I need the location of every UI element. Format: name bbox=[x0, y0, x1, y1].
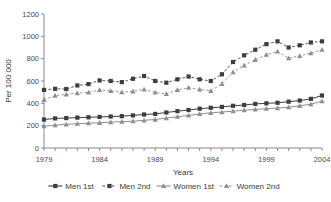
data-point-marker bbox=[319, 47, 324, 52]
series-line bbox=[44, 41, 322, 90]
data-point-marker bbox=[242, 103, 246, 107]
x-axis-title: Years bbox=[173, 168, 193, 177]
data-point-marker bbox=[220, 105, 224, 109]
legend-label: Men 1st bbox=[65, 182, 94, 191]
legend-item-women-2nd[interactable]: Women 2nd bbox=[220, 182, 280, 191]
data-point-marker bbox=[131, 113, 135, 117]
y-axis-tick-label: 200 bbox=[26, 121, 39, 130]
legend-item-men-2nd[interactable]: Men 2nd bbox=[102, 182, 150, 191]
x-axis-tick-label: 1984 bbox=[91, 155, 108, 164]
data-point-marker bbox=[242, 53, 246, 57]
chart-container: 0200400600800100012001979198419891994199… bbox=[0, 0, 331, 202]
y-axis-tick-label: 600 bbox=[26, 77, 39, 86]
y-axis-tick-label: 800 bbox=[26, 54, 39, 63]
data-point-marker bbox=[309, 40, 313, 44]
data-point-marker bbox=[86, 82, 90, 86]
y-axis-title: Per 100 000 bbox=[4, 59, 13, 103]
series-men-2nd bbox=[42, 39, 324, 92]
legend-label: Women 1st bbox=[174, 182, 215, 191]
y-axis-tick-label: 1200 bbox=[22, 10, 39, 19]
data-point-marker bbox=[42, 117, 46, 121]
data-point-marker bbox=[109, 79, 113, 83]
data-point-marker bbox=[107, 184, 111, 188]
data-point-marker bbox=[320, 39, 324, 43]
data-point-marker bbox=[64, 116, 68, 120]
data-point-marker bbox=[253, 57, 258, 62]
data-point-marker bbox=[275, 101, 279, 105]
legend-item-women-1st[interactable]: Women 1st bbox=[157, 182, 215, 191]
data-point-marker bbox=[320, 93, 324, 97]
data-point-marker bbox=[253, 48, 257, 52]
data-point-marker bbox=[264, 52, 269, 57]
data-point-marker bbox=[230, 69, 235, 74]
series-women-1st bbox=[41, 98, 324, 128]
data-point-marker bbox=[253, 102, 257, 106]
y-axis-tick-label: 400 bbox=[26, 99, 39, 108]
data-point-marker bbox=[220, 72, 224, 76]
data-point-marker bbox=[264, 101, 268, 105]
data-point-marker bbox=[264, 42, 268, 46]
series-women-2nd bbox=[41, 47, 324, 102]
data-point-marker bbox=[275, 49, 280, 54]
x-axis-tick-label: 1999 bbox=[258, 155, 275, 164]
data-point-marker bbox=[141, 87, 146, 92]
data-point-marker bbox=[120, 80, 124, 84]
y-axis-tick-label: 0 bbox=[35, 144, 39, 153]
data-point-marker bbox=[198, 77, 202, 81]
data-point-marker bbox=[298, 98, 302, 102]
data-point-marker bbox=[53, 116, 57, 120]
data-point-marker bbox=[64, 87, 68, 91]
data-point-marker bbox=[109, 114, 113, 118]
data-point-marker bbox=[142, 74, 146, 78]
data-point-marker bbox=[75, 83, 79, 87]
series-line bbox=[44, 101, 322, 126]
data-point-marker bbox=[287, 100, 291, 104]
data-point-marker bbox=[98, 78, 102, 82]
data-point-marker bbox=[231, 104, 235, 108]
data-point-marker bbox=[275, 39, 279, 43]
data-point-marker bbox=[119, 89, 124, 94]
data-point-marker bbox=[287, 45, 291, 49]
data-point-marker bbox=[198, 107, 202, 111]
data-point-marker bbox=[309, 97, 313, 101]
data-point-marker bbox=[209, 79, 213, 83]
data-point-marker bbox=[297, 53, 302, 58]
x-axis-tick-label: 1979 bbox=[36, 155, 53, 164]
legend-label: Men 2nd bbox=[119, 182, 150, 191]
x-axis-tick-label: 1989 bbox=[147, 155, 164, 164]
x-axis-tick-label: 2004 bbox=[314, 155, 331, 164]
data-point-marker bbox=[86, 115, 90, 119]
data-point-marker bbox=[120, 114, 124, 118]
data-point-marker bbox=[42, 88, 46, 92]
data-point-marker bbox=[97, 87, 102, 92]
data-point-marker bbox=[175, 77, 179, 81]
data-point-marker bbox=[75, 90, 80, 95]
data-point-marker bbox=[231, 60, 235, 64]
data-point-marker bbox=[186, 85, 191, 90]
data-point-marker bbox=[53, 184, 57, 188]
x-axis-tick-label: 1994 bbox=[202, 155, 219, 164]
data-point-marker bbox=[153, 79, 157, 83]
data-point-marker bbox=[164, 81, 168, 85]
y-axis-tick-label: 1000 bbox=[22, 32, 39, 41]
data-point-marker bbox=[175, 109, 179, 113]
data-point-marker bbox=[98, 115, 102, 119]
data-point-marker bbox=[186, 74, 190, 78]
legend-item-men-1st[interactable]: Men 1st bbox=[48, 182, 94, 191]
data-point-marker bbox=[186, 108, 190, 112]
data-point-marker bbox=[319, 98, 324, 103]
data-point-marker bbox=[153, 112, 157, 116]
data-point-marker bbox=[242, 63, 247, 68]
data-point-marker bbox=[53, 87, 57, 91]
line-chart: 0200400600800100012001979198419891994199… bbox=[0, 0, 331, 202]
data-point-marker bbox=[164, 110, 168, 114]
series-line bbox=[44, 50, 322, 100]
data-point-marker bbox=[75, 116, 79, 120]
data-point-marker bbox=[298, 43, 302, 47]
data-point-marker bbox=[209, 106, 213, 110]
legend-label: Women 2nd bbox=[237, 182, 280, 191]
data-point-marker bbox=[131, 77, 135, 81]
data-point-marker bbox=[142, 112, 146, 116]
